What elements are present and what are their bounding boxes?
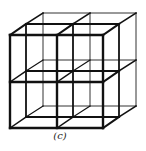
depth-edge xyxy=(73,106,90,117)
depth-edge xyxy=(119,13,136,24)
depth-edge xyxy=(73,13,90,24)
cube-lattice-diagram xyxy=(0,0,146,151)
depth-edge xyxy=(57,117,73,128)
depth-edge xyxy=(10,117,26,128)
figure-caption: (c) xyxy=(48,130,72,141)
depth-edge xyxy=(26,106,43,117)
depth-edge xyxy=(10,24,26,35)
depth-edge xyxy=(103,117,119,128)
depth-edge xyxy=(26,60,43,71)
depth-edge xyxy=(119,60,136,71)
depth-edge xyxy=(57,71,73,82)
depth-edge xyxy=(10,71,26,82)
depth-edge xyxy=(73,60,90,71)
depth-edge xyxy=(26,13,43,24)
depth-edge xyxy=(103,71,119,82)
depth-edge xyxy=(103,24,119,35)
depth-edge xyxy=(57,24,73,35)
depth-edge xyxy=(119,106,136,117)
